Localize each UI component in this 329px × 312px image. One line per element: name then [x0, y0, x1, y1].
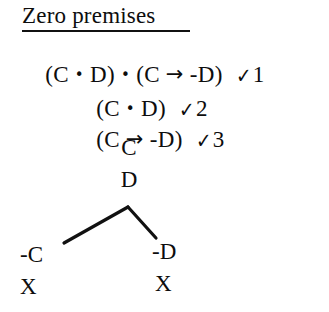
- tree-leaf-not-d: -D: [152, 240, 190, 264]
- branch-closure-mark-right: X: [155, 272, 179, 296]
- line-3-check-number: 3: [213, 127, 225, 152]
- truth-tree-proof: Zero premises (C • D) • (C → -D) ✓1 (C •…: [0, 0, 329, 312]
- page-title: Zero premises: [22, 3, 156, 29]
- line-3-segment-b: -D): [144, 127, 183, 152]
- proof-line-3: (C → -D) ✓3: [72, 101, 224, 179]
- tree-node-c: C: [118, 136, 140, 160]
- checkmark-icon: ✓: [236, 63, 252, 89]
- line-1-check-number: 1: [253, 62, 265, 87]
- tree-leaf-not-c: -C: [20, 243, 58, 267]
- tree-node-d: D: [118, 168, 140, 192]
- line-1-segment-a: (C: [45, 62, 75, 87]
- branch-line-right: [128, 207, 156, 238]
- branch-line-left: [64, 207, 128, 243]
- branch-closure-mark-left: X: [20, 275, 44, 299]
- checkmark-icon: ✓: [196, 128, 212, 154]
- title-underline-rule: [22, 30, 190, 32]
